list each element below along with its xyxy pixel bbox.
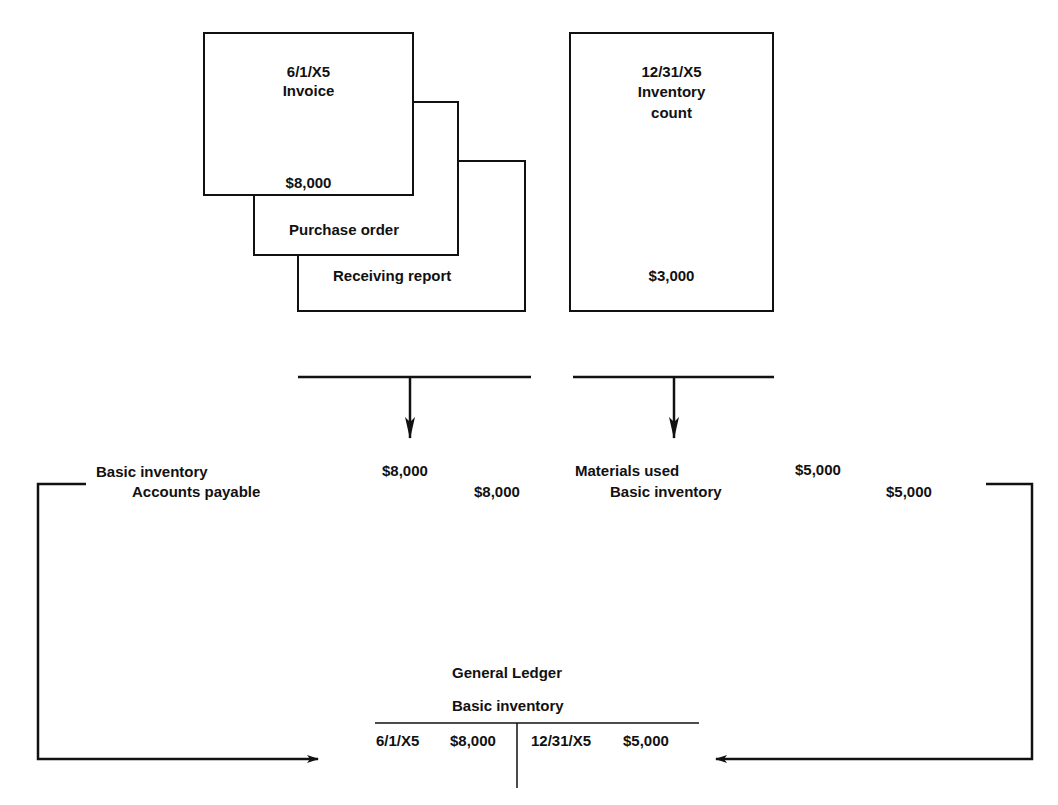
purchase-debit-amount: $8,000 — [382, 462, 428, 480]
ledger-debit-amount: $8,000 — [450, 732, 496, 750]
purchase-credit-amount: $8,000 — [474, 483, 520, 501]
usage-credit-amount: $5,000 — [886, 483, 932, 501]
ledger-account-name: Basic inventory — [452, 697, 564, 715]
purchase-credit-account: Accounts payable — [132, 483, 260, 501]
usage-debit-account: Materials used — [575, 462, 679, 480]
usage-credit-account: Basic inventory — [610, 483, 722, 501]
usage-debit-amount: $5,000 — [795, 461, 841, 479]
ledger-credit-amount: $5,000 — [623, 732, 669, 750]
ledger-credit-date: 12/31/X5 — [531, 732, 591, 750]
flow-connectors — [0, 0, 1058, 805]
purchase-debit-account: Basic inventory — [96, 463, 208, 481]
ledger-title: General Ledger — [452, 664, 562, 682]
ledger-debit-date: 6/1/X5 — [376, 732, 419, 750]
